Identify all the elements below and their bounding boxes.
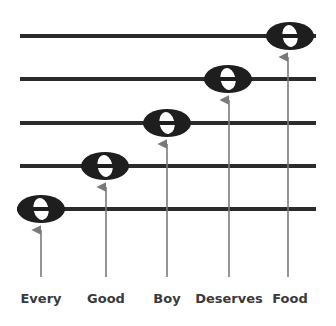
whole-note-deserves-icon <box>204 65 252 93</box>
label-food: Food <box>272 291 308 306</box>
whole-note-boy-icon <box>143 109 191 137</box>
label-deserves: Deserves <box>195 291 263 306</box>
whole-note-every-icon <box>17 195 65 223</box>
whole-note-food-icon <box>266 22 314 50</box>
label-good: Good <box>87 291 125 306</box>
whole-note-good-icon <box>81 152 129 180</box>
word-labels: Every Good Boy Deserves Food <box>20 291 307 306</box>
label-every: Every <box>20 291 62 306</box>
staff-diagram: Every Good Boy Deserves Food <box>0 0 336 326</box>
label-boy: Boy <box>153 291 181 306</box>
